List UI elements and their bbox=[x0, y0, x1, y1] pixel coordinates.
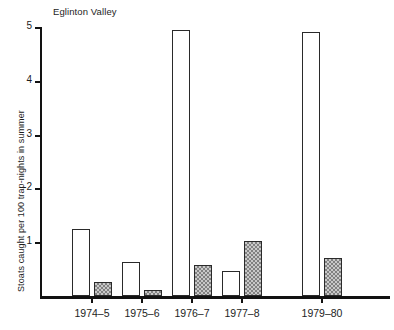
y-tick-label-1: 1 bbox=[26, 235, 32, 246]
bar-open-1979–80 bbox=[302, 32, 320, 296]
x-tick-label-2: 1976–7 bbox=[174, 307, 209, 319]
y-tick-4: 4 bbox=[35, 81, 41, 83]
bar-shaded-1976–7 bbox=[194, 265, 212, 296]
x-tick-label-1: 1975–6 bbox=[124, 307, 159, 319]
y-axis-line bbox=[40, 27, 42, 298]
x-tick-4 bbox=[321, 296, 323, 303]
y-tick-1: 1 bbox=[35, 242, 41, 244]
y-axis-label: Stoats caught per 100 trap-nights in sum… bbox=[16, 42, 26, 292]
bar-shaded-1974–5 bbox=[94, 282, 112, 296]
bar-shaded-1979–80 bbox=[324, 258, 342, 296]
bar-open-1976–7 bbox=[172, 30, 190, 296]
x-tick-2 bbox=[191, 296, 193, 303]
y-tick-5: 5 bbox=[35, 27, 41, 29]
chart-title: Eglinton Valley bbox=[53, 6, 117, 17]
x-tick-label-0: 1974–5 bbox=[74, 307, 109, 319]
plot-area: 12345 1974–51975–61976–71977–81979–80 bbox=[40, 27, 390, 298]
x-tick-3 bbox=[241, 296, 243, 303]
bar-open-1977–8 bbox=[222, 271, 240, 296]
y-tick-label-5: 5 bbox=[26, 20, 32, 31]
bar-shaded-1975–6 bbox=[144, 290, 162, 296]
y-tick-2: 2 bbox=[35, 188, 41, 190]
chart-figure: Eglinton Valley Stoats caught per 100 tr… bbox=[0, 0, 394, 330]
y-tick-label-3: 3 bbox=[26, 128, 32, 139]
y-tick-label-4: 4 bbox=[26, 74, 32, 85]
x-tick-label-4: 1979–80 bbox=[302, 307, 343, 319]
y-tick-3: 3 bbox=[35, 135, 41, 137]
bar-shaded-1977–8 bbox=[244, 241, 262, 296]
x-tick-label-3: 1977–8 bbox=[224, 307, 259, 319]
bar-open-1975–6 bbox=[122, 262, 140, 296]
bar-open-1974–5 bbox=[72, 229, 90, 296]
x-tick-0 bbox=[91, 296, 93, 303]
x-tick-1 bbox=[141, 296, 143, 303]
y-tick-label-2: 2 bbox=[26, 181, 32, 192]
